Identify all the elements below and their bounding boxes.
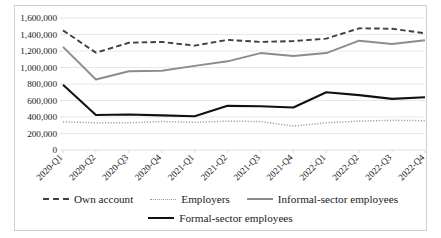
legend-label-employers: Employers [181, 194, 229, 205]
x-axis-tick-label: 2022-Q1 [298, 152, 328, 182]
dotted-line-swatch-icon [150, 199, 176, 200]
y-axis-tick-label: 1,400,000 [20, 30, 57, 40]
legend-label-informal-sector-employees: Informal-sector employees [278, 194, 398, 205]
x-axis-tick-label: 2020-Q1 [34, 152, 64, 182]
series-line-employers [63, 120, 425, 126]
x-axis-tick-label: 2020-Q3 [100, 152, 130, 182]
y-axis-tick-label: 800,000 [27, 79, 57, 89]
x-axis-tick-label: 2021-Q3 [232, 152, 262, 182]
x-axis-tick-label: 2022-Q4 [396, 152, 426, 182]
legend-label-formal-sector-employees: Formal-sector employees [179, 213, 292, 224]
legend-row-secondary: Formal-sector employees [14, 209, 427, 228]
y-axis-tick-label: 200,000 [27, 129, 57, 139]
black-solid-line-swatch-icon [148, 217, 174, 219]
legend-label-own-account: Own account [74, 194, 133, 205]
y-gridlines: 0200,000400,000600,000800,0001,000,0001,… [20, 13, 425, 155]
x-axis-tick-label: 2020-Q2 [67, 152, 97, 182]
y-axis-tick-label: 1,000,000 [20, 63, 57, 73]
legend-item-formal-sector-employees[interactable]: Formal-sector employees [148, 213, 292, 224]
x-axis-ticks: 2020-Q12020-Q22020-Q32020-Q42021-Q12021-… [34, 150, 426, 183]
x-axis-tick-label: 2020-Q4 [133, 152, 163, 182]
x-axis-tick-label: 2021-Q1 [166, 152, 196, 182]
x-axis-tick-label: 2021-Q4 [265, 152, 295, 182]
series-group [63, 28, 425, 126]
dashed-line-swatch-icon [43, 198, 69, 200]
series-line-own-account [63, 28, 425, 52]
legend-row-primary: Own account Employers Informal-sector em… [14, 190, 427, 209]
legend-item-informal-sector-employees[interactable]: Informal-sector employees [247, 194, 398, 205]
x-axis-tick-label: 2022-Q2 [330, 152, 360, 182]
chart-figure: 0200,000400,000600,000800,0001,000,0001,… [0, 0, 441, 238]
legend-item-employers[interactable]: Employers [150, 194, 229, 205]
y-axis-tick-label: 1,600,000 [20, 13, 57, 23]
chart-legend: Own account Employers Informal-sector em… [14, 190, 427, 228]
legend-item-own-account[interactable]: Own account [43, 194, 133, 205]
gray-solid-line-swatch-icon [247, 198, 273, 200]
y-axis-tick-label: 1,200,000 [20, 46, 57, 56]
x-axis-tick-label: 2021-Q2 [199, 152, 229, 182]
y-axis-tick-label: 400,000 [27, 112, 57, 122]
y-axis-tick-label: 600,000 [27, 96, 57, 106]
x-axis-tick-label: 2022-Q3 [363, 152, 393, 182]
